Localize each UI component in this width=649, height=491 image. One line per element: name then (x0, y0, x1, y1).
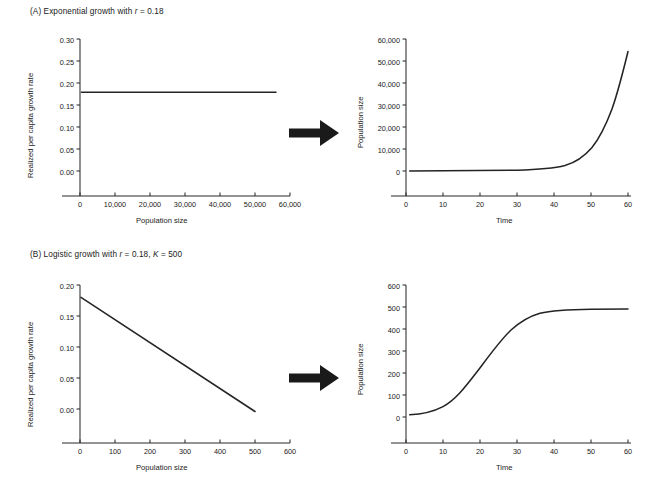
plot-a-right-svg: 60,000 50,000 40,000 30,000 20,000 10,00… (348, 30, 638, 230)
y-axis-ticklabels-a-right: 60,000 50,000 40,000 30,000 20,000 10,00… (378, 36, 400, 177)
plot-a-left: 0.30 0.25 0.20 0.15 0.10 0.05 0.00 (18, 30, 296, 230)
xtick-label: 500 (249, 447, 261, 456)
xtick-label: 0 (78, 447, 82, 456)
ytick-label: 0.05 (60, 146, 74, 155)
xtick-label: 10 (439, 200, 447, 209)
ytick-label: 0.20 (60, 80, 74, 89)
right-arrow-icon (289, 118, 341, 148)
xtick-label: 600 (284, 447, 296, 456)
x-axis-title: Time (496, 463, 513, 472)
xtick-label: 20,000 (139, 200, 161, 209)
xtick-label: 400 (214, 447, 226, 456)
x-axis-ticklabels-b-right: 0 10 20 30 40 50 60 (404, 447, 632, 456)
ytick-label: 0.10 (60, 344, 74, 353)
panel-a: (A) Exponential growth with r = 0.18 0.3… (0, 0, 649, 240)
xtick-label: 40,000 (209, 200, 231, 209)
xtick-label: 200 (144, 447, 156, 456)
y-axis-title: Population size (356, 96, 365, 148)
xtick-label: 20 (476, 447, 484, 456)
ytick-label: 400 (388, 326, 400, 335)
panel-a-title-eq-r: = 0.18 (138, 7, 164, 16)
ytick-label: 0.05 (60, 375, 74, 384)
ytick-label: 10,000 (378, 146, 400, 155)
ytick-label: 0 (396, 414, 400, 423)
ytick-label: 50,000 (378, 58, 400, 67)
ytick-label: 60,000 (378, 36, 400, 45)
xtick-label: 50 (587, 200, 595, 209)
ytick-label: 0.10 (60, 124, 74, 133)
xtick-label: 300 (179, 447, 191, 456)
ytick-label: 200 (388, 370, 400, 379)
data-curve-exponential (410, 52, 628, 171)
ytick-label: 600 (388, 282, 400, 291)
plot-b-left-svg: 0.20 0.15 0.10 0.05 0.00 (18, 275, 296, 480)
xtick-label: 10 (439, 447, 447, 456)
y-axis-title: Realized per capita growth rate (26, 73, 35, 178)
x-axis-title: Population size (136, 463, 188, 472)
xtick-label: 60 (624, 200, 632, 209)
x-axis-ticklabels-a-left: 0 10,000 20,000 30,000 40,000 50,000 60,… (78, 200, 301, 209)
y-axis-ticklabels-b-left: 0.20 0.15 0.10 0.05 0.00 (60, 282, 74, 415)
ytick-label: 30,000 (378, 102, 400, 111)
xtick-label: 30,000 (174, 200, 196, 209)
y-axis-ticklabels-a-left: 0.30 0.25 0.20 0.15 0.10 0.05 0.00 (60, 36, 74, 177)
ytick-label: 300 (388, 348, 400, 357)
xtick-label: 0 (78, 200, 82, 209)
xtick-label: 30 (513, 447, 521, 456)
xtick-label: 20 (476, 200, 484, 209)
panel-b: (B) Logistic growth with r = 0.18, K = 5… (0, 245, 649, 491)
panel-a-title: (A) Exponential growth with r = 0.18 (30, 7, 164, 16)
panel-b-title-eq-k: = 500 (159, 250, 183, 259)
ytick-label: 40,000 (378, 80, 400, 89)
ytick-label: 0.15 (60, 313, 74, 322)
panel-b-title-prefix: (B) Logistic growth with (30, 250, 119, 259)
xtick-label: 10,000 (104, 200, 126, 209)
xtick-label: 30 (513, 200, 521, 209)
panel-a-title-prefix: (A) Exponential growth with (30, 7, 135, 16)
y-axis-title: Realized per capita growth rate (26, 322, 35, 427)
y-axis-ticklabels-b-right: 600 500 400 300 200 100 0 (388, 282, 400, 423)
xtick-label: 50 (587, 447, 595, 456)
plot-b-right: 600 500 400 300 200 100 0 (348, 275, 638, 480)
ytick-label: 0.20 (60, 282, 74, 291)
arrow-a (289, 118, 341, 152)
plot-a-left-svg: 0.30 0.25 0.20 0.15 0.10 0.05 0.00 (18, 30, 296, 230)
xtick-label: 60 (624, 447, 632, 456)
xtick-label: 0 (404, 447, 408, 456)
x-axis-title: Time (496, 216, 513, 225)
x-axis-ticklabels-b-left: 0 100 200 300 400 500 600 (78, 447, 296, 456)
xtick-label: 50,000 (244, 200, 266, 209)
xtick-label: 40 (550, 447, 558, 456)
ytick-label: 0.25 (60, 58, 74, 67)
data-curve-logistic (410, 309, 628, 415)
xtick-label: 60,000 (279, 200, 301, 209)
data-curve-declining-r (81, 297, 255, 411)
xtick-label: 100 (109, 447, 121, 456)
plot-a-right: 60,000 50,000 40,000 30,000 20,000 10,00… (348, 30, 638, 230)
ytick-label: 20,000 (378, 124, 400, 133)
ytick-label: 100 (388, 392, 400, 401)
ytick-label: 0 (396, 168, 400, 177)
x-axis-ticklabels-a-right: 0 10 20 30 40 50 60 (404, 200, 632, 209)
right-arrow-icon (289, 363, 341, 393)
ytick-label: 500 (388, 304, 400, 313)
panel-b-title: (B) Logistic growth with r = 0.18, K = 5… (30, 250, 182, 259)
y-axis-title: Population size (356, 343, 365, 395)
plot-b-left: 0.20 0.15 0.10 0.05 0.00 (18, 275, 296, 480)
x-axis-title: Population size (136, 216, 188, 225)
plot-b-right-svg: 600 500 400 300 200 100 0 (348, 275, 638, 480)
panel-b-title-eq-r: = 0.18, (122, 250, 153, 259)
ytick-label: 0.15 (60, 102, 74, 111)
ytick-label: 0.00 (60, 406, 74, 415)
xtick-label: 40 (550, 200, 558, 209)
xtick-label: 0 (404, 200, 408, 209)
growth-models-figure: (A) Exponential growth with r = 0.18 0.3… (0, 0, 649, 491)
ytick-label: 0.00 (60, 168, 74, 177)
arrow-b (289, 363, 341, 397)
ytick-label: 0.30 (60, 36, 74, 45)
